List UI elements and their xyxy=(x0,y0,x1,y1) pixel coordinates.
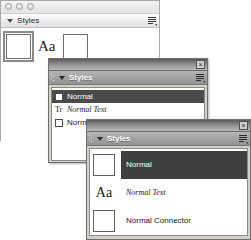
zoom-dot-icon[interactable] xyxy=(27,3,34,10)
window-1-panel-header[interactable]: Styles xyxy=(1,14,159,28)
list-item[interactable]: Aa Normal Text xyxy=(90,179,247,207)
window-1-titlebar[interactable] xyxy=(1,1,159,14)
empty-square-icon xyxy=(93,154,115,176)
empty-square-icon xyxy=(55,119,63,127)
window-2-panel-header[interactable]: Styles xyxy=(49,71,207,85)
list-item-label: Normal xyxy=(126,161,152,169)
window-2-titlebar[interactable]: × xyxy=(49,59,207,71)
window-3-panel-header[interactable]: Styles xyxy=(87,132,250,146)
list-item-label: Normal xyxy=(67,93,93,101)
list-item-strip: Normal Text xyxy=(121,179,247,207)
list-item-label: Normal Connector xyxy=(126,217,191,225)
style-preview-normal-connector[interactable] xyxy=(63,34,88,59)
empty-square-icon xyxy=(93,210,115,232)
window-1-panel-title: Styles xyxy=(17,17,39,25)
list-item-strip: Normal Connector xyxy=(121,207,247,235)
window-3-titlebar[interactable]: × xyxy=(87,120,250,132)
triangle-down-icon[interactable] xyxy=(97,137,103,141)
triangle-down-icon[interactable] xyxy=(7,19,13,23)
drag-grip-icon[interactable] xyxy=(51,74,55,82)
screenshot-stage: Styles Aa × Styles xyxy=(0,0,251,240)
list-item-label: Normal Text xyxy=(126,189,166,197)
close-icon[interactable]: × xyxy=(196,60,205,69)
triangle-down-icon[interactable] xyxy=(59,76,65,80)
minimize-dot-icon[interactable] xyxy=(16,3,23,10)
style-preview-normal[interactable] xyxy=(6,34,31,59)
list-item-strip: Normal xyxy=(121,151,247,179)
style-icon-row: Aa xyxy=(6,34,154,59)
close-dot-icon[interactable] xyxy=(5,3,12,10)
list-item[interactable]: Normal Connector xyxy=(90,207,247,235)
style-thumbnail xyxy=(93,154,115,176)
list-item[interactable]: Normal xyxy=(52,90,204,103)
list-options-icon[interactable] xyxy=(148,17,156,25)
window-2-panel-title: Styles xyxy=(69,74,93,82)
list-item[interactable]: Tr Normal Text xyxy=(52,103,204,116)
window-controls xyxy=(5,3,34,10)
styles-window-3[interactable]: × Styles Normal xyxy=(86,119,251,240)
aa-preview-icon: Aa xyxy=(96,186,112,200)
window-3-panel-title: Styles xyxy=(107,135,131,143)
list-options-icon[interactable] xyxy=(239,135,247,143)
list-item-label: Normal Text xyxy=(67,106,107,114)
drag-grip-icon[interactable] xyxy=(89,135,93,143)
list-item[interactable]: Normal xyxy=(90,151,247,179)
window-3-list: Normal Aa Normal Text Normal Connector xyxy=(89,148,248,236)
truetype-icon: Tr xyxy=(55,106,64,114)
style-thumbnail: Aa xyxy=(93,182,115,204)
style-thumbnail xyxy=(93,210,115,232)
style-preview-normal-text[interactable]: Aa xyxy=(38,39,56,54)
close-icon[interactable]: × xyxy=(239,121,248,130)
list-options-icon[interactable] xyxy=(196,74,204,82)
empty-square-icon xyxy=(55,93,63,101)
